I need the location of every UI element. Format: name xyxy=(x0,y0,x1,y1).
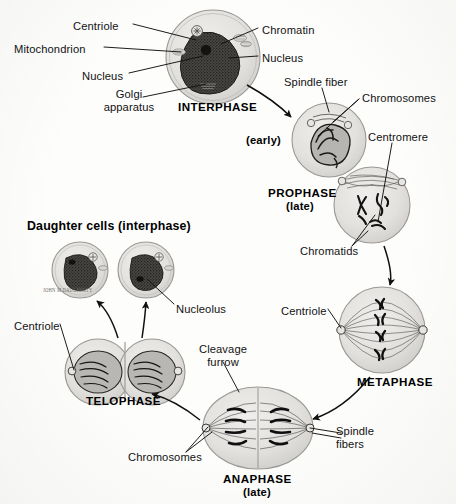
callout-chromatids: Chromatids xyxy=(300,245,358,258)
stage-label-metaphase: METAPHASE xyxy=(357,375,433,388)
callout-nucleolus: Nucleolus xyxy=(176,303,226,316)
callout-spindle-fiber: Spindle fiber xyxy=(284,76,348,89)
callout-chromosomes-prophase: Chromosomes xyxy=(362,92,436,105)
arrow-prophase-to-metaphase xyxy=(384,246,391,285)
callout-centriole-interphase: Centriole xyxy=(73,20,119,33)
callout-spindle-fibers: Spindle fibers xyxy=(336,425,374,450)
callout-chromatin: Chromatin xyxy=(262,24,315,37)
diagram-artwork xyxy=(0,0,456,504)
callout-centriole-metaphase: Centriole xyxy=(281,305,327,318)
callout-nucleus-left: Nucleus xyxy=(82,70,123,83)
cell-prophase-late xyxy=(334,167,410,243)
callout-centriole-telophase: Centriole xyxy=(14,320,60,333)
arrow-telophase-to-daughter-left xyxy=(97,301,118,338)
artist-signature: JOHN M DAUGHERTY xyxy=(43,287,93,293)
stage-label-prophase-late: (late) xyxy=(286,200,314,212)
mitosis-diagram-figure: Daughter cells (interphase) INTERPHASE (… xyxy=(0,0,456,504)
callout-nucleus-right: Nucleus xyxy=(262,52,303,65)
stage-label-telophase: TELOPHASE xyxy=(86,394,161,407)
stage-label-interphase: INTERPHASE xyxy=(178,100,257,113)
callout-cleavage-furrow: Cleavage furrow xyxy=(192,343,254,368)
callout-chromosomes-anaphase: Chromosomes xyxy=(128,451,202,464)
stage-label-prophase: PROPHASE xyxy=(268,186,337,199)
cell-metaphase xyxy=(337,287,427,373)
callout-golgi-apparatus: Golgi apparatus xyxy=(98,88,160,113)
arrow-telophase-to-daughter-right xyxy=(142,302,146,338)
callout-centromere: Centromere xyxy=(368,131,428,144)
cell-anaphase xyxy=(202,387,314,469)
cell-prophase-early xyxy=(292,103,366,177)
stage-label-prophase-early: (early) xyxy=(246,134,281,146)
callout-mitochondrion: Mitochondrion xyxy=(14,43,86,56)
heading-daughter-cells: Daughter cells (interphase) xyxy=(27,219,191,233)
stage-label-anaphase-late: (late) xyxy=(243,486,271,498)
stage-label-anaphase: ANAPHASE xyxy=(223,472,292,485)
